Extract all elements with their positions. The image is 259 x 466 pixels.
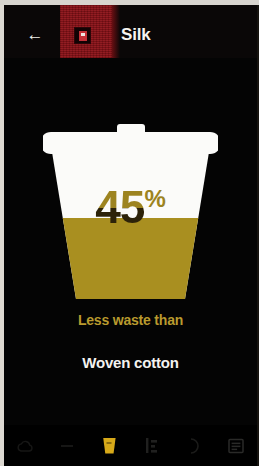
phone-screen: ← Silk <box>0 0 259 466</box>
back-arrow-icon[interactable]: ← <box>22 27 48 43</box>
bottom-navigation <box>4 425 257 466</box>
nav-item-chart[interactable] <box>131 425 173 466</box>
main-content: 45% Less waste than Woven cotton <box>4 58 257 425</box>
caption-primary: Less waste than <box>4 312 257 328</box>
cup-svg <box>43 124 218 299</box>
app-header: ← Silk <box>4 5 257 58</box>
app-square-icon[interactable] <box>74 27 91 44</box>
nav-item-minus[interactable] <box>46 425 88 466</box>
nav-item-cup[interactable] <box>88 425 130 466</box>
screen-right-edge <box>257 5 259 466</box>
cloud-icon <box>16 439 34 453</box>
cup-icon <box>103 438 116 454</box>
minus-icon <box>60 441 74 451</box>
page-title: Silk <box>121 25 150 45</box>
caption-secondary: Woven cotton <box>4 354 257 371</box>
crescent-icon <box>187 438 201 454</box>
nav-item-crescent[interactable] <box>173 425 215 466</box>
cup-infographic: 45% <box>4 124 257 299</box>
nav-item-document[interactable] <box>215 425 257 466</box>
nav-item-cloud[interactable] <box>4 425 46 466</box>
app-icon-glyph <box>79 31 87 41</box>
bar-chart-icon <box>145 437 159 454</box>
document-icon <box>228 438 244 454</box>
cup-fill <box>43 218 218 299</box>
